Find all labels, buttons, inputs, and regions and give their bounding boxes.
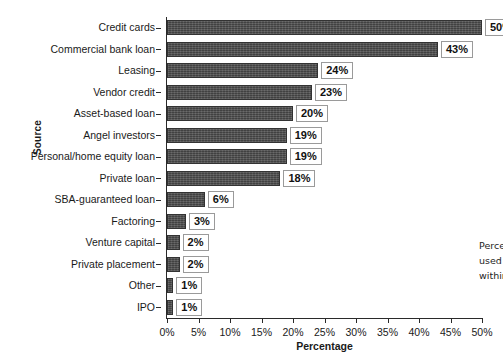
category-tick [156,92,161,93]
bar-chart: Source Credit cardsCommercial bank loanL… [0,0,503,360]
bar-value-label: 18% [283,170,315,187]
bar [167,300,173,315]
bar [167,20,482,35]
x-axis-tick [356,318,357,323]
category-tick [156,178,161,179]
bar [167,42,438,57]
category-tick [156,71,161,72]
category-label: IPO [137,300,155,315]
bar [167,192,205,207]
annotation-line-1: Percentage of business owners who [479,238,503,253]
category-label: Commercial bank loan [51,42,155,57]
x-axis-tick [230,318,231,323]
x-axis-tick [482,318,483,323]
bar-value-label: 24% [321,62,353,79]
category-label: Asset-based loan [74,106,155,121]
bar-value-label: 50% [485,19,503,36]
category-tick [156,157,161,158]
category-label: Private loan [100,171,155,186]
plot-area: Percentage of business owners who used t… [167,17,482,318]
bar [167,106,293,121]
x-axis-tick [388,318,389,323]
x-axis-tick [262,318,263,323]
category-tick [156,135,161,136]
x-axis-tick [199,318,200,323]
chart-annotation: Percentage of business owners who used t… [479,238,503,283]
bar [167,171,280,186]
bar-value-label: 1% [176,299,202,316]
category-label: Angel investors [83,128,155,143]
category-label: Personal/home equity loan [31,149,155,164]
bar [167,257,180,272]
x-axis-tick [451,318,452,323]
category-tick [156,243,161,244]
category-label: SBA-guaranteed loan [55,192,155,207]
category-label: Vendor credit [93,85,155,100]
annotation-line-2: used the following sources of capital [479,253,503,268]
category-axis-labels: Credit cardsCommercial bank loanLeasingV… [18,17,161,318]
x-axis-tick-label: 50% [462,326,502,338]
category-tick [156,264,161,265]
x-axis-title: Percentage [167,340,482,352]
bar-value-label: 1% [176,277,202,294]
annotation-line-3: within the past year [479,268,503,283]
bar-value-label: 2% [183,234,209,251]
category-tick [156,114,161,115]
bar-value-label: 23% [315,84,347,101]
x-axis-tick [167,318,168,323]
category-label: Venture capital [86,235,155,250]
category-tick [156,200,161,201]
bar [167,214,186,229]
category-tick [156,286,161,287]
category-label: Factoring [111,214,155,229]
bar [167,235,180,250]
category-tick [156,307,161,308]
category-label: Credit cards [98,20,155,35]
bar-value-label: 3% [189,213,215,230]
category-label: Private placement [71,257,155,272]
category-label: Other [129,278,155,293]
bar [167,278,173,293]
bar [167,63,318,78]
category-label: Leasing [118,63,155,78]
x-axis-tick [325,318,326,323]
bar [167,149,287,164]
bar-value-label: 43% [441,41,473,58]
bar-value-label: 6% [208,191,234,208]
bar-value-label: 19% [290,148,322,165]
bar [167,85,312,100]
bar-value-label: 20% [296,105,328,122]
x-axis-tick [293,318,294,323]
bar [167,128,287,143]
bar-value-label: 2% [183,256,209,273]
category-tick [156,49,161,50]
bar-value-label: 19% [290,127,322,144]
category-tick [156,28,161,29]
x-axis-tick [419,318,420,323]
category-tick [156,221,161,222]
